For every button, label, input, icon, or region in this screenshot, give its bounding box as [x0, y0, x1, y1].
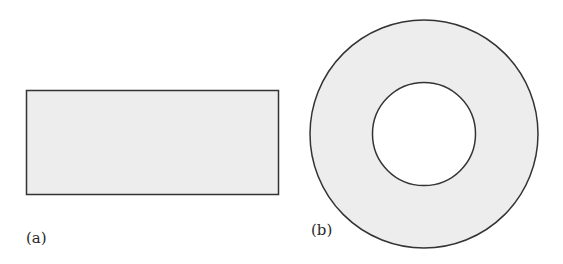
- rectangle-shape: [27, 91, 279, 195]
- annulus-shape: [310, 20, 538, 248]
- panel-label-b: (b): [311, 221, 332, 239]
- figure-canvas: [0, 0, 563, 264]
- panel-label-a: (a): [26, 229, 47, 247]
